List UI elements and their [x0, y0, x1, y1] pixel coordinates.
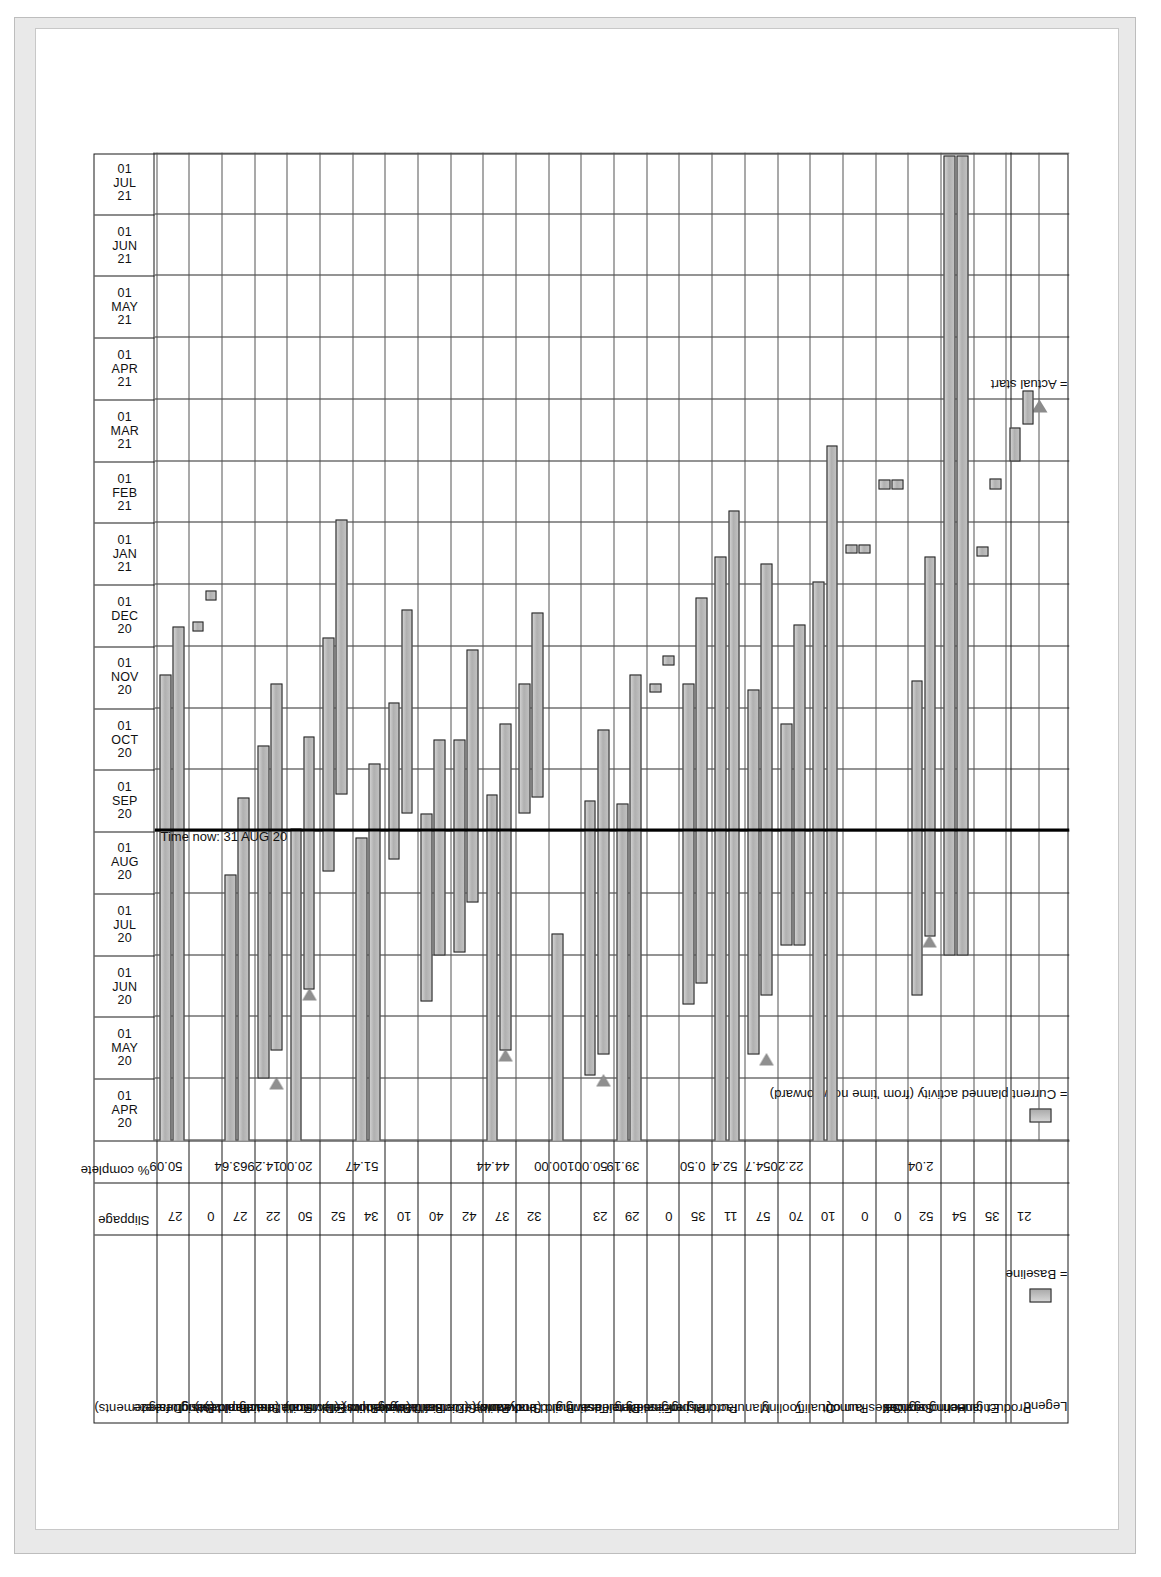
current-plan-bar: [1022, 390, 1034, 424]
timeline-header-cell: 01MAY21: [94, 276, 154, 338]
time-now-line: [154, 829, 1069, 832]
row-separator: [515, 1141, 516, 1423]
grid-horizontal-line: [744, 153, 745, 1141]
grid-vertical-line: [154, 153, 1069, 154]
timeline-header-label: 01APR21: [111, 349, 137, 390]
baseline-bar: [257, 745, 269, 1078]
percent-complete-value: 51.47: [345, 1159, 378, 1172]
current-plan-bar: [924, 557, 936, 937]
timeline-header-label: 01NOV20: [110, 658, 138, 699]
row-separator: [450, 1141, 451, 1423]
timeline-header-cell: 01AUG20: [94, 832, 154, 894]
current-plan-bar: [172, 627, 184, 1141]
baseline-bar: [420, 813, 432, 1001]
current-plan-bar: [826, 446, 838, 1141]
slippage-value: 35: [984, 1209, 999, 1222]
row-separator: [907, 1141, 908, 1423]
current-plan-bar: [695, 597, 707, 983]
timeline-header-cell: 01JUN21: [94, 214, 154, 276]
timeline-header-label: 01JUL21: [113, 163, 136, 204]
grid-horizontal-line: [515, 153, 516, 1141]
legend-baseline-icon: [1029, 1289, 1051, 1303]
legend: Legend= Baseline= Current planned activi…: [1010, 153, 1069, 1423]
timeline-header-cell: 01JUL20: [94, 894, 154, 956]
legend-item-label: = Baseline: [1005, 1267, 1067, 1280]
slippage-value: 40: [429, 1209, 444, 1222]
grid-vertical-line: [154, 337, 1069, 338]
timeline-header-label: 01JAN21: [112, 534, 136, 575]
grid-horizontal-line: [286, 153, 287, 1141]
grid-horizontal-line: [940, 153, 941, 1141]
slippage-value: 0: [207, 1209, 214, 1222]
baseline-bar: [911, 680, 923, 995]
baseline-bar: [551, 934, 563, 1141]
timeline-header-cell: 01JAN21: [94, 523, 154, 585]
row-separator: [319, 1141, 320, 1423]
timeline-header-label: 01SEP20: [111, 781, 137, 822]
slippage-value: 52: [330, 1209, 345, 1222]
grid-horizontal-line: [548, 153, 549, 1141]
timeline-header-cell: 01OCT20: [94, 708, 154, 770]
timeline-header-label: 01JUL20: [113, 905, 136, 946]
baseline-bar: [355, 838, 367, 1141]
baseline-bar: [518, 684, 530, 814]
current-plan-bar: [303, 736, 315, 989]
slippage-column-header: Slippage: [98, 1213, 149, 1226]
current-plan-bar: [205, 591, 217, 600]
grid-horizontal-line: [777, 153, 778, 1141]
timeline-header-cell: 01FEB21: [94, 461, 154, 523]
percent-complete-value: 54.7: [744, 1159, 770, 1172]
scanned-page: Slippage% completeDesign2750.09Design fr…: [0, 0, 1161, 1577]
legend-current-plan-icon: [1029, 1109, 1051, 1123]
baseline-bar: [453, 739, 465, 952]
actual-start-marker: [922, 936, 936, 948]
slippage-value: 54: [951, 1209, 966, 1222]
baseline-bar: [616, 804, 628, 1141]
time-now-label: Time now: 31 AUG 20: [160, 829, 287, 844]
slippage-value: 27: [167, 1209, 182, 1222]
row-separator: [842, 1141, 843, 1423]
grid-horizontal-line: [319, 153, 320, 1141]
row-separator: [744, 1141, 745, 1423]
rotated-chart-wrapper: Slippage% completeDesign2750.09Design fr…: [0, 0, 1161, 1577]
row-separator: [940, 1141, 941, 1423]
slippage-value: 52: [919, 1209, 934, 1222]
percent-complete-value: 63.64: [214, 1159, 247, 1172]
baseline-bar: [322, 637, 334, 872]
slippage-value: 70: [788, 1209, 803, 1222]
percent-complete-value: 44.44: [476, 1159, 509, 1172]
timeline-header-label: 01DEC20: [111, 596, 138, 637]
current-plan-bar: [433, 739, 445, 955]
timeline-header-cell: 01SEP20: [94, 770, 154, 832]
legend-title: Legend: [1023, 1399, 1067, 1412]
baseline-bar: [649, 684, 661, 693]
current-plan-bar: [335, 520, 347, 795]
timeline-header-label: 01MAY20: [111, 1028, 138, 1069]
row-separator: [254, 1141, 255, 1423]
grid-horizontal-line: [646, 153, 647, 1141]
row-separator: [809, 1141, 810, 1423]
grid-horizontal-line: [973, 153, 974, 1141]
baseline-bar: [388, 702, 400, 859]
baseline-bar: [812, 582, 824, 1141]
actual-start-marker: [269, 1078, 283, 1090]
grid-vertical-line: [154, 522, 1069, 523]
actual-start-marker: [759, 1053, 773, 1065]
grid-vertical-line: [154, 275, 1069, 276]
baseline-bar: [878, 480, 890, 489]
grid-horizontal-line: [450, 153, 451, 1141]
timeline-header-cell: 01DEC20: [94, 585, 154, 647]
timeline-header-cell: 01JUN20: [94, 955, 154, 1017]
current-plan-bar: [629, 674, 641, 1140]
current-plan-bar: [531, 613, 543, 798]
percent-complete-value: 50.09: [149, 1159, 182, 1172]
current-plan-bar: [728, 511, 740, 1141]
grid-horizontal-line: [1005, 153, 1006, 1141]
row-separator: [580, 1141, 581, 1423]
slippage-value: 35: [690, 1209, 705, 1222]
percent-complete-value: 39.19: [606, 1159, 639, 1172]
grid-vertical-line: [154, 460, 1069, 461]
timeline-header-label: 01OCT20: [111, 719, 138, 760]
percent-complete-column-header: % complete: [80, 1163, 149, 1176]
legend-item-label: = Actual start: [990, 377, 1067, 390]
